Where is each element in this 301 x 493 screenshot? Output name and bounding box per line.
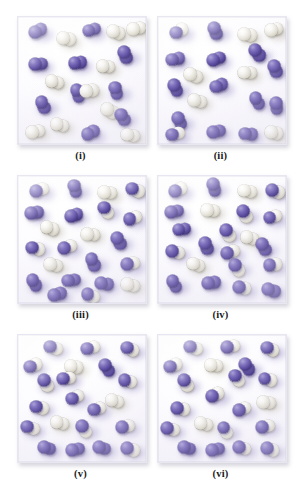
purple-atom (263, 259, 276, 272)
purple-atom (66, 392, 79, 405)
purple-atom (111, 232, 124, 245)
white-atom (264, 24, 277, 37)
white-atom (188, 94, 201, 107)
white-atom (96, 60, 109, 73)
purple-atom (164, 360, 177, 373)
white-atom (187, 257, 200, 270)
purple-atom (98, 201, 111, 214)
purple-atom (261, 341, 274, 354)
panel-iv: (iv) (157, 175, 285, 320)
white-atom (264, 126, 277, 139)
purple-atom (48, 288, 61, 301)
purple-atom (81, 342, 94, 355)
molecular-reaction-figure: (i)(ii)(iii)(iv)(v)(vi) (0, 0, 301, 493)
white-atom (45, 74, 58, 87)
purple-atom (68, 57, 81, 70)
white-atom (44, 258, 57, 271)
purple-atom (166, 275, 179, 288)
purple-atom (206, 390, 219, 403)
panel-caption-v: (v) (17, 468, 145, 479)
purple-atom (221, 341, 234, 354)
white-atom (98, 186, 111, 199)
purple-atom (263, 211, 276, 224)
purple-atom (121, 258, 134, 271)
purple-atom (68, 179, 81, 192)
white-atom (80, 85, 93, 98)
purple-atom (206, 444, 219, 457)
white-atom (240, 231, 253, 244)
purple-atom (233, 403, 246, 416)
purple-atom (85, 253, 98, 266)
purple-atom (229, 258, 242, 271)
panel-caption-iv: (iv) (157, 309, 285, 320)
white-atom (204, 359, 217, 372)
purple-atom (255, 421, 268, 434)
purple-atom (217, 421, 230, 434)
white-atom (257, 395, 270, 408)
purple-atom (21, 420, 34, 433)
panel-caption-ii: (ii) (157, 150, 285, 161)
purple-atom (109, 81, 122, 94)
white-atom (107, 25, 120, 38)
purple-atom (26, 274, 39, 287)
panel-vi: (vi) (157, 334, 285, 479)
purple-atom (210, 80, 223, 93)
white-atom (127, 22, 140, 35)
purple-atom (29, 26, 42, 39)
purple-atom (177, 441, 190, 454)
purple-atom (202, 277, 215, 290)
purple-atom (266, 184, 279, 197)
reaction-vessel-iii (17, 175, 147, 304)
white-atom (238, 184, 251, 197)
white-atom (238, 28, 251, 41)
purple-atom (166, 128, 179, 141)
purple-atom (220, 224, 233, 237)
purple-atom (126, 182, 139, 195)
panel-i: (i) (17, 16, 145, 161)
purple-atom (171, 402, 184, 415)
white-atom (121, 128, 134, 141)
panel-caption-vi: (vi) (157, 468, 285, 479)
purple-atom (66, 443, 79, 456)
panel-iii: (iii) (17, 175, 145, 320)
purple-atom (37, 441, 50, 454)
panel-row-3: (v)(vi) (0, 334, 301, 479)
purple-atom (25, 207, 38, 220)
panel-caption-i: (i) (17, 150, 145, 161)
purple-atom (170, 26, 183, 39)
purple-atom (58, 242, 71, 255)
purple-atom (178, 374, 191, 387)
purple-atom (232, 281, 245, 294)
panel-ii: (ii) (157, 16, 285, 161)
purple-atom (261, 442, 274, 455)
purple-atom (199, 237, 212, 250)
purple-atom (30, 400, 43, 413)
white-atom (100, 103, 113, 116)
purple-atom (62, 274, 75, 287)
white-atom (26, 126, 39, 139)
purple-atom (168, 79, 181, 92)
purple-atom (249, 92, 262, 105)
white-atom (40, 221, 53, 234)
white-atom (184, 68, 197, 81)
white-atom (238, 66, 251, 79)
purple-atom (270, 96, 283, 109)
purple-atom (38, 374, 51, 387)
purple-atom (26, 241, 39, 254)
purple-atom (30, 185, 43, 198)
purple-atom (207, 22, 220, 35)
panel-row-2: (iii)(iv) (0, 175, 301, 320)
purple-atom (165, 206, 178, 219)
purple-atom (44, 340, 57, 353)
purple-atom (117, 46, 130, 59)
white-atom (50, 415, 63, 428)
purple-atom (82, 24, 95, 37)
panel-caption-iii: (iii) (17, 309, 145, 320)
white-atom (121, 278, 134, 291)
purple-atom (207, 126, 220, 139)
purple-atom (81, 127, 94, 140)
purple-atom (23, 360, 36, 373)
purple-atom (28, 58, 41, 71)
purple-atom (121, 442, 134, 455)
purple-atom (239, 358, 252, 371)
